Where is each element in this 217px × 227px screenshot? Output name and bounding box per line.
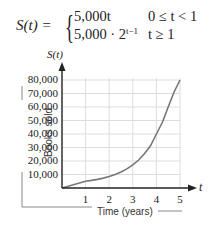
x-tick: 1 <box>81 193 91 205</box>
y-tick: 80,000 <box>28 73 58 85</box>
x-axis-variable: t <box>199 180 202 195</box>
x-tick: 5 <box>175 193 185 205</box>
x-tick: 4 <box>151 193 161 205</box>
x-axis-arrow-icon <box>188 185 197 192</box>
y-axis-title: Books sold <box>43 93 54 173</box>
x-axis-title: Time (years) <box>97 206 153 217</box>
x-tick: 3 <box>128 193 138 205</box>
y-axis-arrow-icon <box>59 62 66 71</box>
x-tick: 2 <box>104 193 114 205</box>
